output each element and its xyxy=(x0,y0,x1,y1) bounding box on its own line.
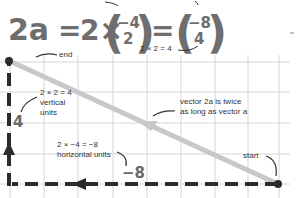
equation-lhs: 2a xyxy=(8,12,49,47)
vertical-arrowhead-icon xyxy=(3,142,15,155)
equation-annotation: 2 × 2 = 4 xyxy=(140,44,172,53)
horizontal-annotation-1: 2 × −4 = −8 xyxy=(57,140,98,149)
horizontal-arrowhead-icon xyxy=(72,178,86,190)
vector-diagram: 2a = 2× ( −4 2 ) = ( −8 4 ) 2 × 2 = 4 en… xyxy=(0,0,297,198)
vertical-annotation-3: units xyxy=(40,108,57,117)
horizontal-value: −8 xyxy=(122,164,145,182)
vector-a-bottom: 2 xyxy=(123,30,133,48)
end-point xyxy=(5,57,13,65)
curved-arrow-icon xyxy=(195,1,198,5)
vertical-annotation-1: 2 × 2 = 4 xyxy=(40,88,72,97)
curved-arrow-icon xyxy=(153,111,175,116)
paren-close-2: ) xyxy=(207,7,227,58)
equation: 2a = 2× ( −4 2 ) = ( −8 4 ) 2 × 2 = 4 xyxy=(8,1,227,58)
vector-2a-bottom: 4 xyxy=(194,30,204,48)
vertical-value: 4 xyxy=(13,113,23,131)
twice-annotation-1: vector 2a is twice xyxy=(180,97,242,106)
start-label: start xyxy=(243,151,259,160)
curved-arrow-icon xyxy=(105,2,118,6)
curved-arrow-icon xyxy=(36,54,57,57)
annotations: end 2 × 2 = 4 vertical units 4 2 × −4 = … xyxy=(13,50,276,182)
twice-annotation-2: as long as vector a xyxy=(180,107,248,116)
vertical-annotation-2: vertical xyxy=(40,98,66,107)
curved-arrow-icon xyxy=(21,97,37,112)
horizontal-annotation-2: horizontal units xyxy=(57,150,111,159)
end-label: end xyxy=(59,50,72,59)
equation-equals-2: = xyxy=(151,14,174,47)
start-point xyxy=(274,180,282,188)
curved-arrow-icon xyxy=(266,156,276,176)
equation-equals-1: = xyxy=(58,14,81,47)
